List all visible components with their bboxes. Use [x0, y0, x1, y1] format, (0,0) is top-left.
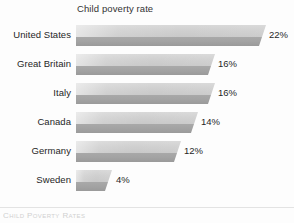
- bar-great-britain: [76, 54, 215, 75]
- bar-fill: [76, 83, 215, 104]
- bar-fill: [76, 141, 181, 162]
- value-label-italy: 16%: [218, 87, 237, 99]
- value-label-great-britain: 16%: [218, 58, 237, 70]
- category-label-great-britain: Great Britain: [0, 58, 71, 70]
- bar-fill: [76, 54, 215, 75]
- bar-fill: [76, 170, 112, 191]
- chart-title: Child poverty rate: [77, 3, 153, 15]
- bar-sweden: [76, 170, 112, 191]
- bar-fill: [76, 112, 198, 133]
- caption-divider: [0, 207, 294, 208]
- bar-row: Great Britain 16%: [0, 53, 294, 75]
- bar-fill: [76, 25, 266, 46]
- value-label-germany: 12%: [184, 145, 203, 157]
- category-label-germany: Germany: [0, 145, 71, 157]
- bar-row: United States 22%: [0, 24, 294, 46]
- category-label-united-states: United States: [0, 29, 71, 41]
- bar-row: Italy 16%: [0, 82, 294, 104]
- bar-row: Sweden 4%: [0, 169, 294, 191]
- bar-canada: [76, 112, 198, 133]
- bar-germany: [76, 141, 181, 162]
- bar-italy: [76, 83, 215, 104]
- bar-row: Germany 12%: [0, 140, 294, 162]
- bar-united-states: [76, 25, 266, 46]
- bar-row: Canada 14%: [0, 111, 294, 133]
- category-label-canada: Canada: [0, 116, 71, 128]
- bar-chart-plot-area: United States 22% Great Britain 16% Ital…: [0, 24, 294, 204]
- figure-caption: Child Poverty Rates: [3, 211, 85, 221]
- value-label-sweden: 4%: [116, 174, 130, 186]
- value-label-united-states: 22%: [269, 29, 288, 41]
- chart-figure: Child poverty rate United States 22% Gre…: [0, 0, 294, 223]
- category-label-sweden: Sweden: [0, 174, 71, 186]
- value-label-canada: 14%: [201, 116, 220, 128]
- category-label-italy: Italy: [0, 87, 71, 99]
